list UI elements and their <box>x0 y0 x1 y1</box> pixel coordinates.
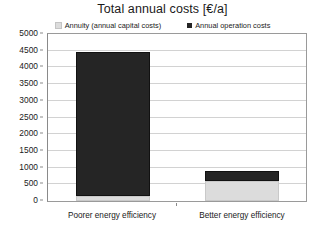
y-tick-mark <box>40 116 43 117</box>
y-tick-mark <box>40 66 43 67</box>
y-tick-mark <box>40 83 43 84</box>
x-tick-label: Better energy efficiency <box>177 203 307 223</box>
bar-segment-operation[interactable] <box>76 52 150 196</box>
chart-container: Total annual costs [€/a] Annuity (annual… <box>0 0 325 237</box>
chart-title: Total annual costs [€/a] <box>0 2 325 16</box>
y-axis: 5000450040003500300025002000150010005000 <box>0 33 43 200</box>
bar-segment-operation[interactable] <box>205 171 279 181</box>
y-tick-label: 1000 <box>19 162 38 172</box>
y-tick-label: 3500 <box>19 78 38 88</box>
y-tick-label: 1500 <box>19 145 38 155</box>
y-tick-mark <box>40 149 43 150</box>
y-tick-mark <box>40 166 43 167</box>
y-tick-mark <box>40 200 43 201</box>
chart-legend: Annuity (annual capital costs) Annual op… <box>0 21 325 30</box>
y-tick-label: 3000 <box>19 95 38 105</box>
legend-swatch-annuity-icon <box>55 22 62 29</box>
y-tick-mark <box>40 183 43 184</box>
legend-item-annuity: Annuity (annual capital costs) <box>55 21 162 30</box>
y-tick-label: 4000 <box>19 61 38 71</box>
legend-label-operation: Annual operation costs <box>195 21 270 30</box>
bar-group[interactable] <box>76 34 150 201</box>
y-tick-label: 4500 <box>19 45 38 55</box>
x-tick-label: Poorer energy efficiency <box>47 203 177 223</box>
y-tick-label: 0 <box>33 195 38 205</box>
y-tick-label: 5000 <box>19 28 38 38</box>
plot-area <box>47 33 307 202</box>
y-tick-mark <box>40 33 43 34</box>
y-tick-mark <box>40 49 43 50</box>
y-tick-label: 2500 <box>19 112 38 122</box>
y-tick-label: 2000 <box>19 128 38 138</box>
y-tick-mark <box>40 99 43 100</box>
bar-segment-annuity[interactable] <box>205 181 279 201</box>
bar-group[interactable] <box>205 34 279 201</box>
y-tick-mark <box>40 133 43 134</box>
bar-segment-annuity[interactable] <box>76 196 150 201</box>
x-tick-mark <box>176 203 177 206</box>
x-axis: Poorer energy efficiencyBetter energy ef… <box>47 203 307 223</box>
legend-item-operation: Annual operation costs <box>187 21 270 30</box>
y-tick-label: 500 <box>24 178 38 188</box>
legend-swatch-operation-icon <box>187 23 192 28</box>
legend-label-annuity: Annuity (annual capital costs) <box>65 21 162 30</box>
